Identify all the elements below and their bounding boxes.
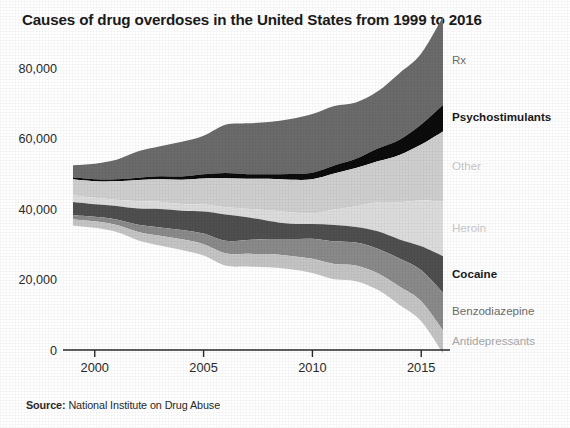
x-tick-label: 2010 xyxy=(298,360,326,375)
series-label-rx: Rx xyxy=(452,53,466,66)
x-tick-label: 2015 xyxy=(407,360,435,375)
source-text: National Institute on Drug Abuse xyxy=(68,399,220,411)
x-tick-label: 2000 xyxy=(81,360,109,375)
streamgraph-svg: 020,00040,00060,00080,000200020052010201… xyxy=(0,0,570,428)
y-tick-label: 40,000 xyxy=(18,203,57,217)
series-labels-group: RxPsychostimulantsOtherHeroinCocaineBenz… xyxy=(452,53,551,347)
series-label-other: Other xyxy=(452,159,481,172)
source-prefix: Source: xyxy=(26,399,66,411)
y-tick-label: 60,000 xyxy=(18,132,57,146)
series-label-cocaine: Cocaine xyxy=(452,267,498,280)
stream-bands-group xyxy=(73,17,443,354)
y-tick-label: 0 xyxy=(50,344,57,358)
series-label-heroin: Heroin xyxy=(452,221,486,234)
chart-figure: Causes of drug overdoses in the United S… xyxy=(0,0,570,428)
y-tick-label: 20,000 xyxy=(18,273,57,287)
series-label-antidepressants: Antidepressants xyxy=(452,334,535,347)
chart-plot-area: 020,00040,00060,00080,000200020052010201… xyxy=(0,0,570,428)
series-label-psychostimulants: Psychostimulants xyxy=(452,110,551,123)
y-tick-label: 80,000 xyxy=(18,62,57,76)
series-label-benzodiazepine: Benzodiazepine xyxy=(452,304,535,317)
source-note: Source: National Institute on Drug Abuse xyxy=(26,399,220,411)
x-tick-label: 2005 xyxy=(189,360,217,375)
